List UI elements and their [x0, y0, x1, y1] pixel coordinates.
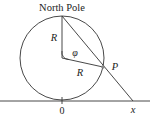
origin-label: 0 [60, 105, 65, 116]
radius-to-p-label: R [76, 67, 84, 78]
angle-label: φ [72, 47, 78, 58]
radius-vertical-label: R [50, 32, 58, 43]
north-pole-label: North Pole [39, 2, 85, 13]
point-p-label: P [111, 61, 119, 72]
point-p-marker [101, 65, 105, 69]
projection-line [62, 16, 133, 101]
stereographic-projection-diagram: North Pole R φ R P 0 x [0, 0, 152, 119]
projection-x-label: x [130, 104, 136, 115]
